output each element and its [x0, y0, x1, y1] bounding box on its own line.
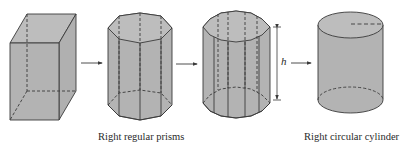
height-dimension [273, 27, 281, 100]
circular-cylinder [318, 12, 383, 113]
caption-prisms: Right regular prisms [98, 131, 184, 142]
many-sided-prism [203, 11, 270, 118]
rectangular-prism [10, 14, 76, 120]
octagonal-prism [108, 13, 172, 120]
prism-to-cylinder-diagram: h Right regular prisms Right circular cy… [0, 0, 408, 152]
diagram-canvas [0, 0, 408, 152]
caption-cylinder: Right circular cylinder [304, 131, 399, 142]
height-label: h [281, 55, 287, 67]
